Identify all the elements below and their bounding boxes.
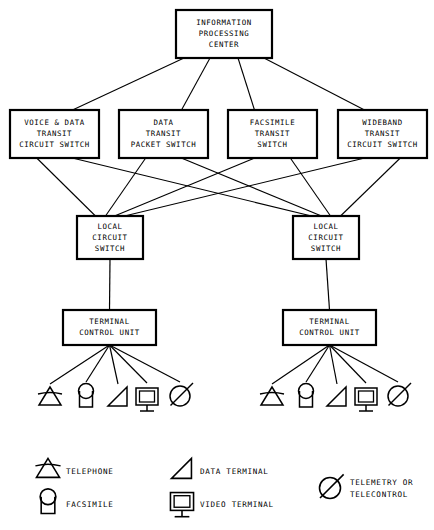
link-transit-to-local <box>105 158 145 216</box>
local-circuit-switch-right-label-line: SWITCH <box>311 244 341 253</box>
legend-video-terminal-label: VIDEO TERMINAL <box>200 500 274 509</box>
wideband-transit-circuit-switch[interactable]: WIDEBANDTRANSITCIRCUIT SWITCH <box>338 110 427 158</box>
telemetry-symbol[interactable] <box>170 383 193 406</box>
link-control-to-terminal <box>110 345 181 382</box>
link-local-to-control <box>326 259 330 310</box>
legend-facsimile-label: FACSIMILE <box>66 500 113 509</box>
telemetry-symbol[interactable] <box>388 383 411 406</box>
legend-telephone[interactable]: TELEPHONE <box>35 458 113 477</box>
link-transit-to-local <box>125 158 365 216</box>
link-center-to-transit <box>264 58 365 110</box>
terminal-control-unit-left[interactable]: TERMINALCONTROL UNIT <box>63 310 156 345</box>
legend-telemetry-label-line2: TELECONTROL <box>350 490 408 499</box>
data-transit-packet-switch[interactable]: DATATRANSITPACKET SWITCH <box>119 110 208 158</box>
facsimile-transit-switch[interactable]: FACSIMILETRANSITSWITCH <box>228 110 317 158</box>
local-circuit-switch-right-label-line: LOCAL <box>313 222 338 231</box>
link-center-to-transit <box>73 58 185 110</box>
facsimile-symbol[interactable] <box>79 384 94 408</box>
information-processing-center-label-line: PROCESSING <box>199 29 250 38</box>
terminal-control-unit-right[interactable]: TERMINALCONTROL UNIT <box>283 310 376 345</box>
terminal-control-unit-right-label-line: CONTROL UNIT <box>299 328 360 337</box>
data-transit-packet-switch-label-line: PACKET SWITCH <box>131 140 197 149</box>
facsimile-transit-switch-label-line: FACSIMILE <box>250 118 295 127</box>
link-transit-to-local <box>72 158 311 216</box>
link-local-to-control <box>110 259 111 310</box>
data-transit-packet-switch-label-line: TRANSIT <box>146 129 181 138</box>
link-control-to-terminal <box>86 345 110 382</box>
facsimile-transit-switch-label-line: SWITCH <box>257 140 287 149</box>
information-processing-center-label-line: INFORMATION <box>196 18 252 27</box>
terminal-symbols <box>38 383 411 411</box>
terminal-control-unit-right-label-line: TERMINAL <box>309 317 349 326</box>
link-transit-to-local <box>341 158 401 216</box>
voice-data-transit-circuit-switch-label-line: CIRCUIT SWITCH <box>19 140 90 149</box>
telephone-symbol[interactable] <box>38 387 62 405</box>
link-center-to-transit <box>182 58 211 110</box>
voice-data-transit-circuit-switch[interactable]: VOICE & DATATRANSITCIRCUIT SWITCH <box>10 110 99 158</box>
legend-telemetry[interactable]: TELEMETRY ORTELECONTROL <box>320 474 414 499</box>
video-terminal-symbol[interactable] <box>136 388 158 411</box>
link-control-to-terminal <box>330 345 367 383</box>
legend-data-terminal-icon[interactable] <box>172 458 192 478</box>
link-center-to-transit <box>238 58 255 110</box>
local-circuit-switch-left-label-line: SWITCH <box>95 244 125 253</box>
voice-data-transit-circuit-switch-label-line: VOICE & DATA <box>24 118 85 127</box>
local-circuit-switch-left-label-line: LOCAL <box>97 222 122 231</box>
legend-facsimile[interactable]: FACSIMILE <box>40 489 113 514</box>
legend-telemetry-icon[interactable] <box>320 474 344 498</box>
link-control-to-terminal <box>330 345 399 382</box>
voice-data-transit-circuit-switch-label-line: TRANSIT <box>37 129 72 138</box>
terminal-group-right <box>260 383 411 411</box>
legend-telephone-icon[interactable] <box>35 458 60 477</box>
legend-video-terminal[interactable]: VIDEO TERMINAL <box>170 493 273 517</box>
terminal-control-unit-left-label-line: CONTROL UNIT <box>79 328 140 337</box>
link-control-to-terminal <box>306 345 330 382</box>
video-terminal-symbol[interactable] <box>355 388 377 411</box>
legend-telemetry-label: TELEMETRY OR <box>350 478 413 487</box>
legend-group: TELEPHONEFACSIMILEDATA TERMINALVIDEO TER… <box>35 458 413 516</box>
data-terminal-symbol[interactable] <box>108 387 127 406</box>
data-terminal-symbol[interactable] <box>327 387 346 406</box>
local-circuit-switch-left-label-line: CIRCUIT <box>92 233 127 242</box>
network-diagram: INFORMATIONPROCESSINGCENTERVOICE & DATAT… <box>0 0 434 530</box>
legend-facsimile-icon[interactable] <box>40 489 56 514</box>
diagram-canvas: INFORMATIONPROCESSINGCENTERVOICE & DATAT… <box>0 0 434 530</box>
wideband-transit-circuit-switch-label-line: TRANSIT <box>365 129 400 138</box>
information-processing-center-label-line: CENTER <box>209 40 239 49</box>
terminal-group-left <box>38 383 193 411</box>
facsimile-transit-switch-label-line: TRANSIT <box>255 129 290 138</box>
local-circuit-switch-right-label-line: CIRCUIT <box>308 233 343 242</box>
facsimile-symbol[interactable] <box>299 384 314 408</box>
legend-data-terminal-label: DATA TERMINAL <box>200 467 269 476</box>
local-circuit-switch-left[interactable]: LOCALCIRCUITSWITCH <box>77 216 143 259</box>
wideband-transit-circuit-switch-label-line: WIDEBAND <box>362 118 402 127</box>
link-transit-to-local <box>181 158 321 216</box>
legend-video-terminal-icon[interactable] <box>170 493 193 517</box>
link-transit-to-local <box>290 158 330 216</box>
legend-data-terminal[interactable]: DATA TERMINAL <box>172 458 269 478</box>
link-control-to-terminal <box>272 345 330 384</box>
data-transit-packet-switch-label-line: DATA <box>153 118 173 127</box>
wideband-transit-circuit-switch-label-line: CIRCUIT SWITCH <box>347 140 418 149</box>
link-control-to-terminal <box>110 345 119 384</box>
node-boxes: INFORMATIONPROCESSINGCENTERVOICE & DATAT… <box>10 10 427 345</box>
terminal-control-unit-left-label-line: TERMINAL <box>89 317 129 326</box>
telephone-symbol[interactable] <box>260 387 284 405</box>
local-circuit-switch-right[interactable]: LOCALCIRCUITSWITCH <box>293 216 359 259</box>
link-transit-to-local <box>115 158 255 216</box>
information-processing-center[interactable]: INFORMATIONPROCESSINGCENTER <box>176 10 272 58</box>
link-control-to-terminal <box>110 345 148 383</box>
link-control-to-terminal <box>50 345 110 384</box>
legend-telephone-label: TELEPHONE <box>66 467 113 476</box>
link-transit-to-local <box>37 158 96 216</box>
